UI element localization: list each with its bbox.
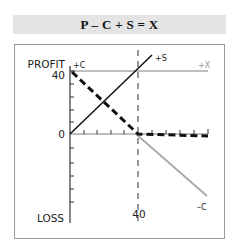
series-minus-c-line bbox=[136, 134, 207, 196]
y-axis-ticks bbox=[70, 71, 75, 202]
payoff-chart: PROFIT 40 0 LOSS 40 +C +S +X –C bbox=[0, 0, 242, 250]
x-tick-label-40: 40 bbox=[132, 208, 145, 220]
series-label-minus-c: –C bbox=[197, 203, 207, 212]
series-label-plus-s: +S bbox=[155, 54, 167, 63]
series-plus-c-line bbox=[72, 72, 208, 136]
y-tick-label-40: 40 bbox=[52, 69, 65, 81]
series-label-plus-c: +C bbox=[73, 61, 86, 70]
loss-label: LOSS bbox=[37, 212, 64, 224]
series-label-plus-x: +X bbox=[198, 61, 211, 70]
y-tick-label-0: 0 bbox=[58, 128, 65, 140]
